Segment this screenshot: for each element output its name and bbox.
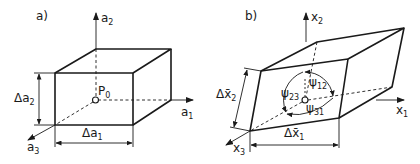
dim-a1-label: Δa1	[82, 126, 103, 142]
point-p0-label: P0	[98, 84, 110, 100]
dim-x1-label: Δx̄1	[284, 126, 304, 142]
dim-x2-extension-bottom	[230, 127, 250, 131]
box-top-face	[55, 49, 171, 73]
angle-psi12-label: ψ12	[309, 75, 327, 91]
solid-top-face	[261, 28, 404, 71]
axis-x1-label: x1	[396, 103, 408, 119]
angle-psi31-label: ψ31	[306, 101, 324, 117]
figure-canvas: a) a2 a1 a3 P0 Δa2 Δa1 b)	[0, 0, 420, 164]
solid-right-face	[339, 28, 404, 118]
axis-x2-label: x2	[311, 10, 323, 26]
panel-a-rectangular-box: a) a2 a1 a3 P0 Δa2 Δa1	[14, 9, 193, 156]
axis-a2-label: a2	[101, 11, 113, 27]
hidden-axis-a3-segment	[55, 102, 93, 125]
panel-a-label: a)	[36, 9, 48, 23]
axis-a1-label: a1	[181, 105, 193, 121]
dim-a2-label: Δa2	[14, 91, 35, 107]
axis-x3-label: x3	[233, 141, 245, 157]
panel-b-sheared-parallelepiped: b) x2 x1 x3 ψ12 ψ23 ψ31 Δx̄2	[216, 9, 408, 157]
axis-a3-label: a3	[27, 140, 39, 156]
axis-a3-arrow	[28, 125, 55, 140]
dim-x2-label: Δx̄2	[216, 87, 236, 103]
panel-b-label: b)	[245, 9, 257, 23]
angle-psi23-label: ψ23	[281, 86, 299, 102]
